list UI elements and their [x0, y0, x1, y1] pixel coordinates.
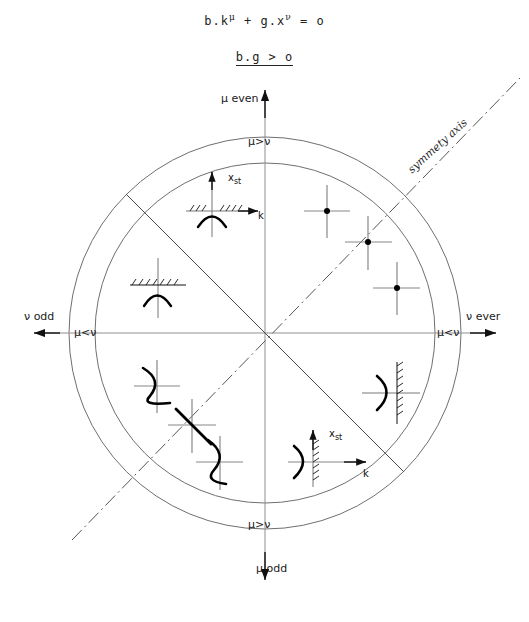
- inset-lm-hatching: [132, 279, 178, 285]
- inset-lr-label-xst: xst: [329, 428, 342, 442]
- inset-lr-hatching: [313, 440, 319, 480]
- inset-upper-left-parabola: [186, 172, 258, 237]
- inset-left-hatched-curve: [130, 258, 186, 318]
- marker-upper-right-3: [373, 262, 420, 315]
- inset-lr-label-k: k: [363, 468, 369, 479]
- inset-ul-label-k: k: [258, 210, 264, 221]
- marker-dot: [394, 285, 400, 291]
- ring-label-right: μ<ν: [437, 326, 459, 339]
- axis-label-top: μ even: [221, 92, 259, 105]
- ring-label-left: μ<ν: [74, 326, 96, 339]
- inset-rm-hatching: [397, 362, 403, 415]
- axis-label-bottom: μ odd: [256, 562, 287, 575]
- marker-upper-right-1: [304, 185, 350, 238]
- inset-right-hatched-curve: [362, 362, 420, 424]
- ring-label-top: μ>ν: [248, 135, 270, 148]
- symmetry-axis-line: [72, 78, 520, 540]
- axis-label-left: ν odd: [24, 310, 54, 323]
- inset-ul-label-xst: xst: [228, 172, 241, 186]
- marker-lower-left-1: [134, 360, 180, 413]
- inset-ul-hatching: [190, 205, 242, 211]
- ring-label-bottom: μ>ν: [248, 518, 270, 531]
- inset-lower-right-parabola: [288, 430, 366, 487]
- marker-lower-left-3: [196, 436, 243, 490]
- marker-lower-left-2: [168, 399, 216, 453]
- marker-dot: [365, 239, 371, 245]
- axis-label-right: ν ever: [466, 310, 500, 323]
- marker-upper-right-2: [345, 216, 392, 270]
- marker-dot: [324, 208, 330, 214]
- figure-root: b.kμ + g.xν = o b.g > o: [0, 0, 529, 622]
